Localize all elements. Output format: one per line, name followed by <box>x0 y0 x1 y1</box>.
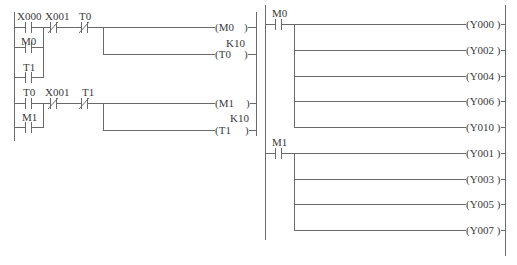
coil-y001: (Y001 ) <box>466 148 501 159</box>
coil-m1-label: (M1 <box>215 97 234 109</box>
timer-t1-preset: K10 <box>230 113 249 124</box>
contact-label-t1-rung2: T1 <box>82 87 94 98</box>
ladder-diagram: X000 X001 T0 M0 T1 (M0) K10 (T0) T0 X001… <box>0 0 517 265</box>
contact-label-t0-rung2: T0 <box>23 87 35 98</box>
contact-label-t1: T1 <box>23 62 35 73</box>
coil-y002: (Y002 ) <box>466 45 501 56</box>
coil-y003: (Y003 ) <box>466 174 501 185</box>
contact-label-t0: T0 <box>79 11 91 22</box>
contact-label-x001-rung2: X001 <box>45 87 69 98</box>
coil-t0-close: ) <box>231 48 248 60</box>
coil-m1: (M1) <box>215 98 250 109</box>
coil-t0-label: (T0 <box>215 48 231 60</box>
coil-y004: (Y004 ) <box>466 71 501 82</box>
contact-label-m0-right: M0 <box>272 8 287 19</box>
coil-t1-label: (T1 <box>215 124 231 136</box>
coil-y007: (Y007 ) <box>466 225 501 236</box>
m1-rung-wiring <box>265 148 505 231</box>
coil-t0: (T0) <box>215 49 248 60</box>
contact-label-m0: M0 <box>21 36 36 47</box>
coil-m1-close: ) <box>234 97 250 109</box>
ladder-wiring <box>0 0 517 265</box>
contact-label-m1: M1 <box>22 112 37 123</box>
contact-label-x000: X000 <box>17 11 41 22</box>
coil-m0-label: (M0 <box>215 21 234 33</box>
coil-t1-close: ) <box>231 124 249 136</box>
contact-label-m1-right: M1 <box>272 137 287 148</box>
coil-y005: (Y005 ) <box>466 199 501 210</box>
contact-label-x001: X001 <box>45 11 69 22</box>
coil-m0-close: ) <box>234 21 248 33</box>
coil-y000: (Y000 ) <box>466 19 501 30</box>
coil-y006: (Y006 ) <box>466 96 501 107</box>
coil-m0: (M0) <box>215 22 248 33</box>
coil-y010: (Y010 ) <box>466 122 501 133</box>
coil-t1: (T1) <box>215 125 249 136</box>
